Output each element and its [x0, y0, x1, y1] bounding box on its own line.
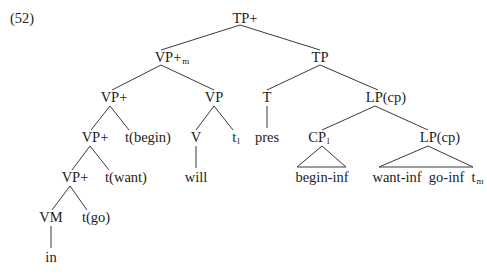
node-vp-plus-m: VP+m: [155, 50, 190, 64]
node-vm: VM: [39, 210, 62, 224]
node-vp-plus: VP+: [82, 130, 109, 144]
node-lp-terminals: want-inf go-inf tm: [372, 170, 483, 184]
syntax-tree-figure: (52) TP+ VP+m: [0, 0, 487, 274]
node-v: V: [191, 130, 201, 144]
node-t-want: t(want): [105, 170, 147, 184]
branch: [91, 106, 110, 130]
node-t-begin: t(begin): [125, 130, 171, 144]
branch: [161, 65, 214, 90]
branch: [72, 146, 90, 170]
branch: [110, 106, 129, 130]
node-lp-cp: LP(cp): [366, 90, 406, 104]
node-in: in: [45, 250, 56, 264]
node-vp: VP: [205, 90, 224, 104]
branch: [240, 25, 320, 50]
node-pres: pres: [255, 130, 279, 144]
triangle-cp: [297, 146, 346, 167]
branch: [90, 146, 109, 170]
node-will: will: [185, 170, 208, 184]
triangle-lp: [379, 146, 473, 167]
branch: [112, 65, 161, 90]
branch: [52, 186, 70, 210]
branch: [375, 106, 428, 130]
tree-branches: [0, 0, 487, 274]
branch: [161, 25, 240, 50]
branch: [70, 186, 87, 210]
branch: [214, 106, 233, 130]
node-tp: TP: [312, 50, 329, 64]
branch: [320, 65, 378, 90]
node-lp-cp: LP(cp): [420, 130, 460, 144]
node-vp-plus: VP+: [101, 90, 128, 104]
node-t: T: [263, 90, 272, 104]
node-tp-plus: TP+: [232, 11, 257, 25]
branch: [196, 106, 214, 130]
node-begin-inf: begin-inf: [295, 170, 348, 184]
node-cp-l: CPl: [308, 130, 329, 144]
node-t-go: t(go): [82, 210, 110, 224]
branch: [322, 106, 375, 130]
node-trace-l: tl: [232, 130, 240, 144]
node-vp-plus: VP+: [62, 170, 89, 184]
branch: [267, 65, 320, 90]
